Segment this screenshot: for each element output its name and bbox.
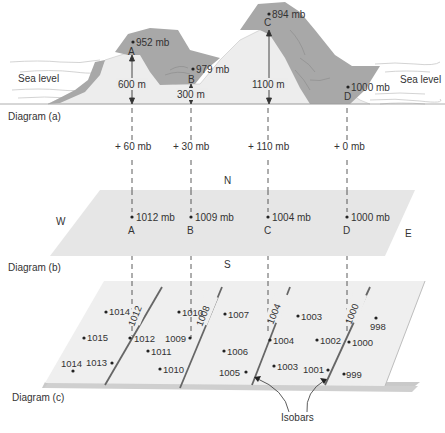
b-station-c-label: C [264, 225, 271, 236]
station-d-pressure: 1000 mb [351, 82, 390, 93]
b-station-b-label: B [187, 225, 194, 236]
station-b-pressure: 979 mb [196, 64, 230, 75]
sea-level-left-label: Sea level [18, 73, 59, 84]
point-1004: 1004 [273, 335, 294, 346]
b-station-d-pressure: 1000 mb [351, 212, 390, 223]
point-1003b: 1003 [277, 361, 298, 372]
sea-level-right-label: Sea level [400, 74, 441, 85]
compass-s: S [224, 259, 231, 270]
correction-d: + 0 mb [334, 141, 365, 152]
point-1013: 1013 [86, 357, 107, 368]
point-1000: 1000 [352, 337, 373, 348]
plane-b [50, 190, 415, 256]
station-c-label: C [264, 17, 271, 28]
diagram-a-label: Diagram (a) [8, 111, 61, 122]
point-1005: 1005 [219, 367, 240, 378]
point-1006: 1006 [227, 346, 248, 357]
point-1009: 1009 [165, 333, 186, 344]
diagram-b-label: Diagram (b) [8, 262, 61, 273]
point-1012: 1012 [134, 333, 155, 344]
point-1001: 1001 [303, 364, 324, 375]
station-b-elevation: 300 m [177, 89, 205, 100]
point-1015: 1015 [87, 332, 108, 343]
station-c-pressure: 894 mb [272, 9, 306, 20]
isobars-label: Isobars [281, 412, 314, 423]
b-station-c-dot [266, 215, 269, 218]
b-station-a-dot [130, 215, 133, 218]
b-station-d-dot [345, 215, 348, 218]
b-station-a-label: A [128, 225, 135, 236]
diagram-a: 952 mb A 979 mb B 894 mb C 1000 mb D 600… [0, 2, 445, 122]
point-998: 998 [370, 321, 386, 332]
b-station-a-pressure: 1012 mb [136, 212, 175, 223]
point-1011: 1011 [151, 346, 171, 357]
point-1002: 1002 [320, 335, 341, 346]
station-c-dot [267, 12, 270, 15]
diagram-c: 1012 1008 1004 1000 1014 1015 1014 1013 … [12, 281, 425, 423]
b-station-b-dot [189, 215, 192, 218]
station-a-dot [131, 40, 134, 43]
b-station-b-pressure: 1009 mb [195, 212, 234, 223]
point-1003a: 1003 [301, 311, 322, 322]
point-1007: 1007 [228, 309, 249, 320]
station-a-elevation: 600 m [118, 79, 146, 90]
correction-a: + 60 mb [115, 141, 152, 152]
compass-w: W [56, 216, 66, 227]
point-1010b: 1010 [182, 307, 203, 318]
station-d-dot [346, 85, 349, 88]
b-station-c-pressure: 1004 mb [272, 212, 311, 223]
point-1014b: 1014 [61, 358, 82, 369]
station-d-label: D [344, 91, 351, 102]
point-999: 999 [346, 369, 362, 380]
correction-c: + 110 mb [248, 141, 290, 152]
b-station-d-label: D [343, 225, 350, 236]
station-b-label: B [188, 74, 195, 85]
station-a-pressure: 952 mb [136, 37, 170, 48]
point-1014a: 1014 [109, 306, 130, 317]
diagram-c-label: Diagram (c) [12, 392, 64, 403]
point-1010a: 1010 [163, 364, 184, 375]
correction-b: + 30 mb [173, 141, 210, 152]
diagram-b: N S W E 1012 mb A 1009 mb B 1004 mb C 10… [8, 175, 415, 273]
station-c-elevation: 1100 m [252, 79, 285, 90]
pressure-corrections: + 60 mb + 30 mb + 110 mb + 0 mb [115, 141, 365, 152]
station-b-dot [191, 67, 194, 70]
compass-n: N [224, 175, 231, 186]
compass-e: E [405, 228, 412, 239]
